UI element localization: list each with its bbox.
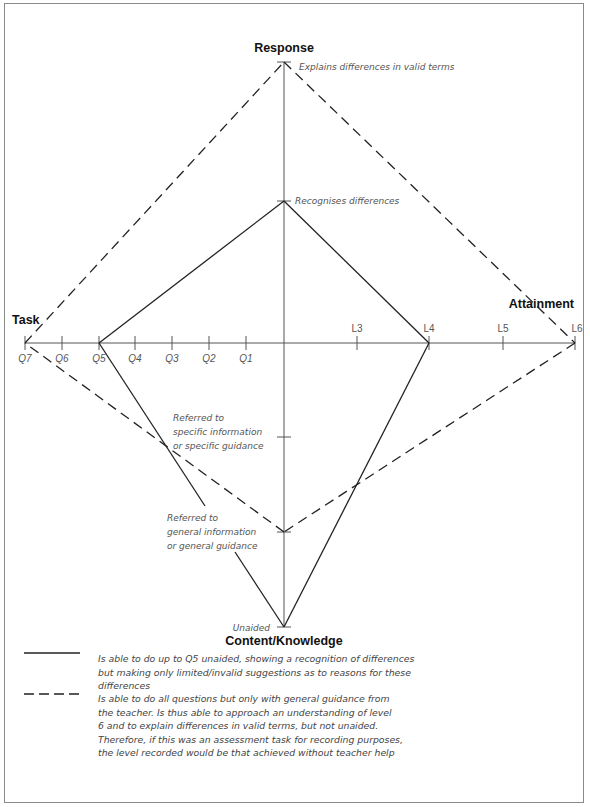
tick-q2: Q2 [202, 353, 216, 364]
note-explains-differences: Explains differences in valid terms [299, 62, 455, 72]
note-recognises-differences: Recognises differences [295, 196, 400, 206]
tick-l3: L3 [351, 323, 363, 334]
axis-title-response: Response [254, 41, 314, 55]
series-dashed [25, 62, 575, 532]
task-tick-labels: Q7 Q6 Q5 Q4 Q3 Q2 Q1 [18, 353, 252, 364]
svg-text:or specific guidance: or specific guidance [173, 441, 264, 451]
tick-q5: Q5 [92, 353, 106, 364]
tick-l4: L4 [423, 323, 435, 334]
tick-q3: Q3 [165, 353, 179, 364]
axes [25, 62, 575, 627]
axis-title-content: Content/Knowledge [225, 634, 342, 648]
series-solid [99, 201, 429, 627]
note-specific-guidance: Referred to specific information or spec… [173, 413, 264, 451]
legend-solid-description: Is able to do up to Q5 unaided, showing … [98, 652, 414, 693]
tick-q1: Q1 [239, 353, 252, 364]
note-unaided: Unaided [233, 623, 271, 633]
attainment-tick-labels: L3 L4 L5 L6 [351, 323, 583, 334]
note-general-guidance: Referred to general information or gener… [167, 513, 258, 551]
tick-q4: Q4 [128, 353, 142, 364]
tick-q7: Q7 [18, 353, 32, 364]
svg-text:specific information: specific information [173, 427, 262, 437]
tick-l6: L6 [571, 323, 583, 334]
svg-text:Referred to: Referred to [167, 513, 219, 523]
axis-title-attainment: Attainment [509, 297, 575, 311]
svg-text:Referred to: Referred to [173, 413, 225, 423]
tick-q6: Q6 [55, 353, 69, 364]
svg-text:or general guidance: or general guidance [167, 541, 258, 551]
legend-dashed-description: Is able to do all questions but only wit… [98, 692, 403, 760]
svg-text:general information: general information [167, 527, 256, 537]
tick-l5: L5 [497, 323, 509, 334]
axis-title-task: Task [12, 313, 40, 327]
